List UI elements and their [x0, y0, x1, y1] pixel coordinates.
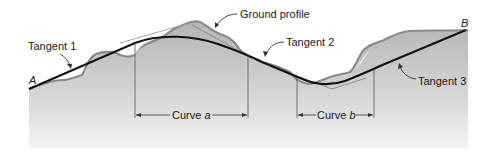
ground-profile-label: Ground profile: [240, 8, 310, 20]
tangent-1-label: Tangent 1: [28, 40, 76, 52]
tangent-2-leader: [266, 42, 284, 54]
tangent-3-label: Tangent 3: [418, 75, 466, 87]
ground-profile-area: [29, 21, 468, 148]
point-b-label: B: [461, 17, 468, 29]
tangent-1-leader-arrow-icon: [67, 64, 72, 69]
road-profile-diagram: Curve a Curve b Ground profile Tangent 1…: [0, 0, 494, 156]
curve-b-label: Curve b: [317, 109, 356, 121]
tangent-2-label: Tangent 2: [286, 36, 334, 48]
curve-a-label: Curve a: [172, 109, 211, 121]
ground-profile-leader: [216, 14, 237, 26]
point-a-label: A: [28, 74, 36, 86]
tangent-2-leader-arrow-icon: [263, 51, 268, 57]
